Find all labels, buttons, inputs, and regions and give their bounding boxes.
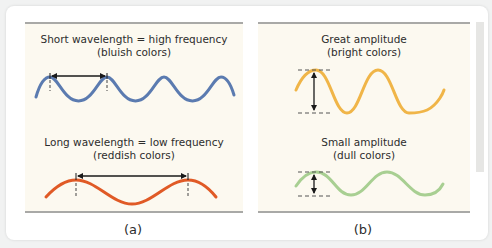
small-amplitude-wave: [296, 172, 443, 196]
panel-label-a: (a): [113, 222, 153, 237]
waves-illustration: [0, 0, 492, 248]
long-wavelength-wave: [46, 173, 216, 204]
short-wavelength-wave: [36, 73, 234, 101]
panel-label-b: (b): [343, 222, 383, 237]
great-amplitude-wave: [296, 70, 444, 113]
